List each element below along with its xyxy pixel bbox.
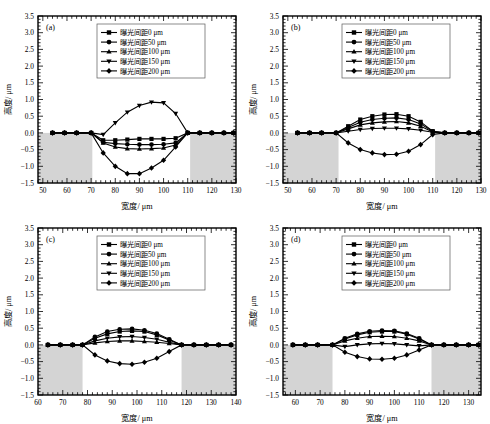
y-tick-label: −1.5	[266, 391, 280, 400]
data-point-marker	[352, 242, 356, 246]
legend-entry-label: 曝光间距100 μm	[365, 47, 415, 56]
x-tick-label: 130	[475, 186, 486, 195]
data-point-marker	[404, 331, 409, 336]
y-tick-label: 3.5	[270, 224, 280, 233]
y-tick-label: 0.5	[270, 324, 280, 333]
x-tick-label: 100	[389, 398, 400, 407]
x-tick-label: 90	[109, 398, 117, 407]
y-axis-label: 高度/ μm	[3, 295, 13, 327]
data-point-marker	[125, 137, 129, 141]
legend-entry-label: 曝光间距100 μm	[120, 259, 170, 268]
legend-entry-label: 曝光间距200 μm	[120, 279, 170, 288]
y-axis-label: 高度/ μm	[248, 83, 258, 115]
x-tick-label: 50	[39, 186, 47, 195]
x-tick-label: 100	[131, 398, 142, 407]
legend-entry-label: 曝光间距0 μm	[365, 28, 408, 37]
data-point-marker	[355, 332, 360, 337]
data-point-marker	[107, 40, 112, 45]
panel-label: (d)	[291, 235, 301, 244]
data-point-marker	[137, 142, 142, 147]
x-tick-label: 50	[284, 186, 292, 195]
legend-marker-circle-icon	[107, 252, 112, 257]
y-tick-label: 0.0	[25, 341, 35, 350]
y-tick-label: 0.5	[25, 324, 35, 333]
legend-entry-label: 曝光间距50 μm	[365, 250, 412, 259]
legend-marker-square-icon	[107, 242, 111, 246]
data-point-marker	[174, 136, 178, 140]
x-tick-label: 130	[206, 398, 217, 407]
panel-label: (a)	[46, 23, 55, 32]
x-tick-label: 100	[158, 186, 169, 195]
y-tick-label: −1.5	[266, 179, 280, 188]
x-tick-label: 100	[403, 186, 414, 195]
shaded-substrate-region	[182, 345, 236, 395]
y-tick-label: 2.5	[270, 45, 280, 54]
data-point-marker	[117, 327, 122, 332]
y-tick-label: 1.5	[25, 78, 35, 87]
y-tick-label: 1.5	[270, 78, 280, 87]
legend-marker-square-icon	[352, 242, 356, 246]
legend-entry-label: 曝光间距100 μm	[365, 259, 415, 268]
data-point-marker	[352, 30, 356, 34]
x-tick-label: 110	[156, 398, 167, 407]
x-tick-label: 110	[414, 398, 425, 407]
x-tick-label: 110	[182, 186, 193, 195]
legend-marker-square-icon	[107, 30, 111, 34]
data-point-marker	[137, 137, 141, 141]
x-tick-label: 70	[332, 186, 340, 195]
y-tick-label: 3.0	[25, 28, 35, 37]
legend-entry-label: 曝光间距200 μm	[365, 67, 415, 76]
x-tick-label: 60	[34, 398, 42, 407]
legend-marker-circle-icon	[107, 40, 112, 45]
data-point-marker	[107, 252, 112, 257]
y-tick-label: −1.5	[21, 179, 35, 188]
legend-entry-label: 曝光间距200 μm	[120, 67, 170, 76]
x-tick-label: 60	[308, 186, 316, 195]
y-tick-label: 2.0	[270, 274, 280, 283]
legend-entry-label: 曝光间距50 μm	[365, 38, 412, 47]
legend-entry-label: 曝光间距200 μm	[365, 279, 415, 288]
y-tick-label: 2.0	[270, 62, 280, 71]
y-axis-label: 高度/ μm	[248, 295, 258, 327]
shaded-substrate-region	[190, 133, 236, 183]
x-tick-label: 70	[316, 398, 324, 407]
x-tick-label: 70	[59, 398, 67, 407]
data-point-marker	[154, 331, 159, 336]
legend-entry-label: 曝光间距0 μm	[120, 28, 163, 37]
x-tick-label: 90	[366, 398, 374, 407]
x-axis-label: 宽度/ μm	[366, 201, 398, 211]
x-tick-label: 70	[87, 186, 95, 195]
y-axis-label: 高度/ μm	[3, 83, 13, 115]
y-tick-label: 2.0	[25, 62, 35, 71]
data-point-marker	[352, 40, 357, 45]
y-tick-label: −0.5	[266, 357, 280, 366]
legend-marker-square-icon	[352, 30, 356, 34]
x-tick-label: 60	[292, 398, 300, 407]
data-point-marker	[149, 137, 153, 141]
y-tick-label: 0.5	[25, 112, 35, 121]
x-tick-label: 80	[112, 186, 120, 195]
x-tick-label: 130	[230, 186, 241, 195]
y-tick-label: 3.5	[25, 224, 35, 233]
x-tick-label: 60	[63, 186, 71, 195]
x-axis-label: 宽度/ μm	[121, 201, 153, 211]
y-tick-label: 2.5	[270, 257, 280, 266]
y-tick-label: −0.5	[21, 357, 35, 366]
chart-panel-d: 60708090100110120130−1.5−1.0−0.50.00.51.…	[245, 212, 490, 424]
shaded-substrate-region	[38, 345, 83, 395]
data-point-marker	[130, 327, 135, 332]
y-tick-label: 0.5	[270, 112, 280, 121]
data-point-marker	[93, 335, 98, 340]
x-tick-label: 80	[341, 398, 349, 407]
legend-entry-label: 曝光间距50 μm	[120, 38, 167, 47]
panel-label: (b)	[291, 23, 301, 32]
x-tick-label: 120	[451, 186, 462, 195]
shaded-substrate-region	[38, 133, 92, 183]
y-tick-label: −1.0	[266, 374, 280, 383]
y-tick-label: −1.5	[21, 391, 35, 400]
legend-entry-label: 曝光间距150 μm	[365, 269, 415, 278]
x-tick-label: 90	[381, 186, 389, 195]
y-tick-label: 1.0	[25, 307, 35, 316]
legend-entry-label: 曝光间距0 μm	[120, 240, 163, 249]
data-point-marker	[380, 328, 385, 333]
